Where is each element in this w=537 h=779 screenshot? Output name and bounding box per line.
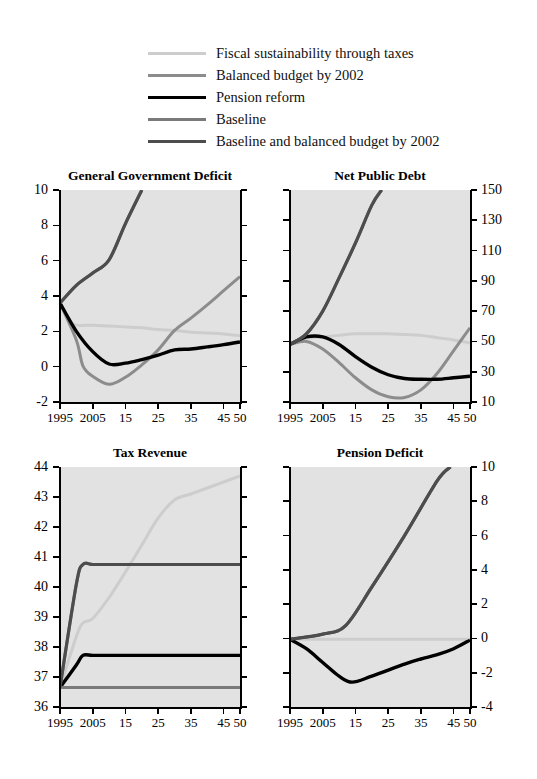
- y-tick-pension-deficit--2: [471, 672, 477, 674]
- x-tick-net-public-debt-45: [453, 403, 455, 409]
- y-tick-tax-revenue-40: [241, 586, 247, 588]
- legend-swatch-fiscal_sustainability_through_taxes: [148, 52, 206, 55]
- y-tick-general-government-deficit-10: [53, 189, 59, 191]
- y-tick-net-public-debt-30: [471, 371, 477, 373]
- x-axis-line-tax-revenue: [59, 707, 242, 709]
- x-axis-line-net-public-debt: [289, 402, 472, 404]
- y-tick-net-public-debt-50: [471, 341, 477, 343]
- y-tick-tax-revenue-37: [53, 676, 59, 678]
- y-tick-pension-deficit-0: [283, 638, 289, 640]
- y-tick-net-public-debt-110: [471, 250, 477, 252]
- y-tick-net-public-debt-130: [471, 219, 477, 221]
- y-tick-net-public-debt-70: [283, 310, 289, 312]
- chart-title-pension-deficit: Pension Deficit: [290, 445, 470, 461]
- legend-item-balanced_budget_by_2002[interactable]: Balanced budget by 2002: [0, 64, 537, 86]
- y-tick-label-net-public-debt-130: 130: [481, 213, 502, 227]
- y-tick-tax-revenue-44: [241, 466, 247, 468]
- series-line-tax-revenue-baseline-and-balanced-budget-by-2002: [60, 563, 240, 687]
- legend-swatch-baseline_and_balanced_budget_by_2002: [148, 140, 206, 143]
- y-tick-tax-revenue-43: [241, 496, 247, 498]
- legend-item-baseline_and_balanced_budget_by_2002[interactable]: Baseline and balanced budget by 2002: [0, 130, 537, 152]
- y-tick-net-public-debt-90: [283, 280, 289, 282]
- y-tick-label-general-government-deficit-4: 4: [22, 289, 48, 303]
- y-tick-net-public-debt-90: [471, 280, 477, 282]
- legend-item-pension_reform[interactable]: Pension reform: [0, 86, 537, 108]
- y-tick-net-public-debt-10: [283, 401, 289, 403]
- series-line-general-government-deficit-fiscal-sustainability-through-taxes: [60, 303, 240, 336]
- y-tick-tax-revenue-43: [53, 496, 59, 498]
- legend-item-baseline[interactable]: Baseline: [0, 108, 537, 130]
- series-line-net-public-debt-pension-reform: [290, 336, 470, 379]
- y-tick-label-general-government-deficit-6: 6: [22, 254, 48, 268]
- series-layer-tax-revenue: [60, 467, 240, 707]
- x-tick-general-government-deficit-2005: [92, 403, 94, 409]
- x-tick-label-general-government-deficit-50: 50: [220, 410, 260, 426]
- x-tick-general-government-deficit-1995: [59, 403, 61, 409]
- plot-area-tax-revenue: [60, 467, 240, 707]
- y-tick-net-public-debt-70: [471, 310, 477, 312]
- y-tick-label-pension-deficit--4: -4: [481, 700, 493, 714]
- y-tick-tax-revenue-42: [241, 526, 247, 528]
- chart-title-general-government-deficit: General Government Deficit: [60, 168, 240, 184]
- x-tick-tax-revenue-35: [190, 708, 192, 714]
- y-tick-net-public-debt-50: [283, 341, 289, 343]
- chart-title-net-public-debt: Net Public Debt: [290, 168, 470, 184]
- y-tick-tax-revenue-39: [53, 616, 59, 618]
- y-tick-label-general-government-deficit-8: 8: [22, 218, 48, 232]
- y-tick-label-net-public-debt-30: 30: [481, 365, 495, 379]
- chart-panel-tax-revenue: Tax Revenue36373839404142434419952005152…: [22, 445, 266, 735]
- legend-swatch-pension_reform: [148, 96, 206, 99]
- series-line-pension-deficit-balanced-budget-by-2002: [290, 467, 450, 639]
- x-tick-net-public-debt-35: [420, 403, 422, 409]
- y-tick-pension-deficit--2: [283, 672, 289, 674]
- x-tick-net-public-debt-15: [355, 403, 357, 409]
- y-tick-tax-revenue-41: [53, 556, 59, 558]
- y-tick-tax-revenue-36: [241, 706, 247, 708]
- y-tick-pension-deficit-6: [471, 535, 477, 537]
- x-tick-net-public-debt-50: [469, 403, 471, 409]
- y-axis-line-pension-deficit: [289, 467, 291, 708]
- y-tick-pension-deficit-2: [471, 603, 477, 605]
- x-tick-tax-revenue-1995: [59, 708, 61, 714]
- y-tick-net-public-debt-110: [283, 250, 289, 252]
- x-tick-tax-revenue-2005: [92, 708, 94, 714]
- series-line-tax-revenue-pension-reform: [60, 655, 240, 688]
- legend-label-baseline_and_balanced_budget_by_2002: Baseline and balanced budget by 2002: [216, 130, 439, 152]
- y-tick-net-public-debt-30: [283, 371, 289, 373]
- x-axis-line-general-government-deficit: [59, 402, 242, 404]
- x-tick-tax-revenue-50: [239, 708, 241, 714]
- y-tick-general-government-deficit-0: [53, 366, 59, 368]
- y-tick-label-tax-revenue-39: 39: [22, 610, 48, 624]
- y-tick-label-pension-deficit-10: 10: [481, 460, 495, 474]
- legend-swatch-baseline: [148, 118, 206, 121]
- series-layer-net-public-debt: [290, 190, 470, 402]
- y-tick-label-tax-revenue-43: 43: [22, 490, 48, 504]
- y-tick-pension-deficit-8: [283, 500, 289, 502]
- x-tick-pension-deficit-45: [453, 708, 455, 714]
- x-tick-label-pension-deficit-50: 50: [450, 715, 490, 731]
- y-tick-general-government-deficit-4: [241, 295, 247, 297]
- x-tick-general-government-deficit-35: [190, 403, 192, 409]
- x-tick-general-government-deficit-50: [239, 403, 241, 409]
- legend-item-fiscal_sustainability_through_taxes[interactable]: Fiscal sustainability through taxes: [0, 42, 537, 64]
- y-tick-label-general-government-deficit-2: 2: [22, 324, 48, 338]
- x-tick-general-government-deficit-45: [223, 403, 225, 409]
- y-axis-line-net-public-debt: [289, 190, 291, 403]
- y-tick-general-government-deficit-0: [241, 366, 247, 368]
- y-tick-tax-revenue-38: [53, 646, 59, 648]
- y-tick-label-net-public-debt-90: 90: [481, 274, 495, 288]
- legend-swatch-balanced_budget_by_2002: [148, 74, 206, 77]
- y-tick-net-public-debt-10: [471, 401, 477, 403]
- x-tick-general-government-deficit-15: [125, 403, 127, 409]
- legend-label-pension_reform: Pension reform: [216, 86, 305, 108]
- x-tick-pension-deficit-1995: [289, 708, 291, 714]
- y-tick-general-government-deficit-4: [53, 295, 59, 297]
- x-tick-pension-deficit-50: [469, 708, 471, 714]
- x-tick-tax-revenue-45: [223, 708, 225, 714]
- plot-area-pension-deficit: [290, 467, 470, 707]
- y-axis-line-general-government-deficit: [59, 190, 61, 403]
- y-tick-pension-deficit-4: [283, 569, 289, 571]
- legend-label-baseline: Baseline: [216, 108, 266, 130]
- series-line-net-public-debt-baseline-and-balanced-budget-by-2002: [290, 190, 382, 344]
- y-tick-label-tax-revenue-42: 42: [22, 520, 48, 534]
